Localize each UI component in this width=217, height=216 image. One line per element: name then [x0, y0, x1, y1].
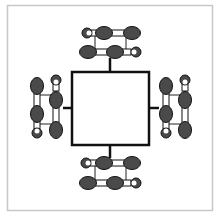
lobe — [124, 27, 141, 40]
lobe — [50, 92, 63, 109]
lobe — [96, 157, 113, 170]
diagram-canvas — [0, 0, 217, 216]
molecular-diagram — [0, 0, 217, 216]
lobe — [160, 78, 173, 95]
lobe — [107, 46, 124, 59]
lobe — [80, 46, 97, 59]
lobe — [179, 122, 192, 139]
lobe — [107, 177, 124, 190]
lobe — [179, 92, 192, 109]
lobe — [31, 106, 44, 123]
center-square — [72, 72, 149, 145]
lobe — [80, 177, 97, 190]
lobe — [160, 106, 173, 123]
lobe — [50, 122, 63, 139]
lobe — [96, 27, 113, 40]
lobe — [124, 157, 141, 170]
lobe — [31, 78, 44, 95]
